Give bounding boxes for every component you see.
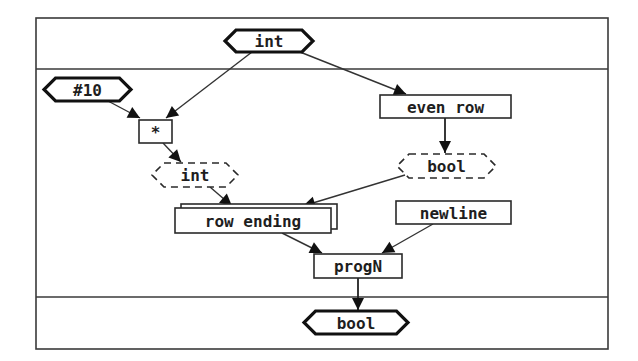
node-output-bool[interactable]: bool <box>304 311 408 334</box>
arrowhead-icon <box>166 106 179 118</box>
dataflow-diagram: int #10 * int even row bool row ending n… <box>0 0 638 361</box>
node-int-result[interactable]: int <box>152 163 238 187</box>
node-even-row[interactable]: even row <box>380 95 511 118</box>
node-bool-result[interactable]: bool <box>397 154 496 178</box>
node-const-10[interactable]: #10 <box>44 78 131 101</box>
edge-bool_result-to-row_ending <box>303 175 405 206</box>
node-label: row ending <box>205 212 301 231</box>
node-row-ending[interactable]: row ending <box>175 204 337 233</box>
node-label: progN <box>334 257 382 276</box>
node-label: even row <box>407 98 484 117</box>
edge-input_int-to-multiply <box>166 52 252 118</box>
node-label: bool <box>337 314 376 333</box>
node-progN[interactable]: progN <box>314 254 402 278</box>
arrowhead-icon <box>382 242 395 253</box>
node-label: int <box>255 32 284 51</box>
node-label: #10 <box>73 81 102 100</box>
arrowhead-icon <box>439 141 451 153</box>
node-label: * <box>151 123 161 142</box>
arrowhead-icon <box>352 298 364 310</box>
node-label: newline <box>420 204 487 223</box>
edge-input_int-to-even_row <box>300 52 406 94</box>
node-label: bool <box>427 157 466 176</box>
node-multiply[interactable]: * <box>139 120 172 143</box>
diagram-frame <box>36 18 608 349</box>
node-label: int <box>181 166 210 185</box>
node-newline[interactable]: newline <box>396 201 511 224</box>
node-input-int[interactable]: int <box>225 30 313 52</box>
